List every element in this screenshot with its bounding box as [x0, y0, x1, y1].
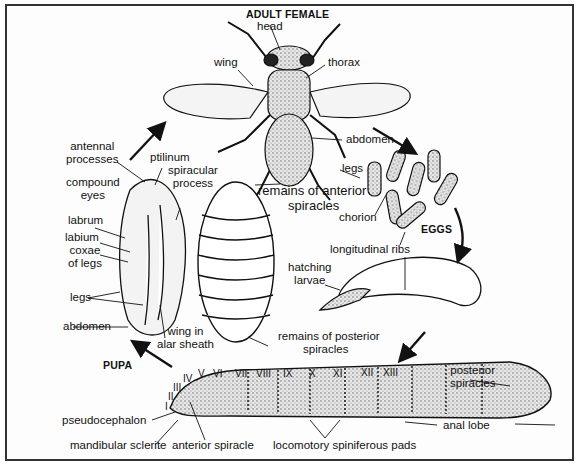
- label-head: head: [257, 20, 283, 33]
- label-wing-in-alar-sheath: wing in alar sheath: [157, 325, 214, 351]
- label-posterior-remains: remains of posterior spiracles: [278, 330, 380, 356]
- label-labium: labium: [65, 231, 99, 244]
- segment-VI: VI: [213, 367, 222, 380]
- segment-XI: XI: [333, 367, 342, 380]
- label-hatching-larvae: hatching larvae: [288, 261, 331, 287]
- segment-VII: VII: [235, 367, 247, 380]
- label-coxae-of-legs: coxae of legs: [68, 244, 102, 270]
- label-thorax: thorax: [328, 56, 360, 69]
- label-ptilinum: ptilinum: [150, 151, 190, 164]
- segment-IV: IV: [183, 372, 192, 385]
- label-anterior-remains-line1: remains of anterior: [258, 183, 366, 198]
- label-hatching-line2: larvae: [294, 274, 325, 286]
- label-abdomen-adult: abdomen: [346, 133, 394, 146]
- label-compound-eyes: compound eyes: [66, 176, 120, 202]
- label-wing-sheath-line1: wing in: [168, 325, 204, 337]
- label-labrum: labrum: [68, 214, 103, 227]
- segment-XII: XII: [361, 366, 373, 379]
- label-chorion: chorion: [339, 211, 377, 224]
- hatching-larva-illustration: [320, 257, 481, 310]
- label-coxae-line2: of legs: [68, 257, 102, 269]
- label-legs-adult: legs: [342, 162, 363, 175]
- segment-XIII: XIII: [383, 366, 398, 379]
- stage-label-eggs: EGGS: [421, 223, 452, 236]
- segment-V: V: [198, 367, 205, 380]
- segment-VIII: VIII: [256, 367, 271, 380]
- label-hatching-line1: hatching: [288, 261, 331, 273]
- label-antennal-line1: antennal: [70, 140, 114, 152]
- label-anterior-remains: remains of anterior spiracles: [258, 183, 366, 213]
- label-posterior-spiracles: posterior spiracles: [450, 364, 495, 390]
- label-anterior-remains-line2: spiracles: [258, 198, 339, 213]
- label-abdomen-pupa: abdomen: [63, 320, 111, 333]
- label-longitudinal-ribs: longitudinal ribs: [330, 243, 410, 256]
- label-coxae-line1: coxae: [70, 244, 101, 256]
- label-compound-line2: eyes: [81, 189, 105, 201]
- label-antennal-processes: antennal processes: [66, 140, 118, 166]
- label-posterior-remains-line2: spiracles: [278, 343, 348, 355]
- label-spiracular-process: spiracular process: [168, 164, 218, 190]
- segment-IX: IX: [283, 367, 292, 380]
- label-spiracular-line1: spiracular: [168, 164, 218, 176]
- label-posterior-remains-line1: remains of posterior: [278, 330, 380, 342]
- label-legs-pupa: legs: [70, 291, 91, 304]
- pupa-illustration: [120, 180, 186, 335]
- label-compound-line1: compound: [66, 176, 120, 188]
- label-locomotory-spiniferous-pads: locomotory spiniferous pads: [273, 439, 416, 452]
- label-pseudocephalon: pseudocephalon: [62, 414, 146, 427]
- eggs-illustration: [368, 149, 460, 231]
- label-wing-sheath-line2: alar sheath: [157, 338, 214, 350]
- label-spiracular-line2: process: [173, 177, 213, 189]
- label-posterior-spiracles-line1: posterior: [450, 364, 495, 376]
- label-anal-lobe: anal lobe: [443, 419, 490, 432]
- label-wing: wing: [214, 56, 238, 69]
- stage-label-pupa: PUPA: [103, 359, 132, 372]
- segment-X: X: [309, 367, 316, 380]
- label-posterior-spiracles-line2: spiracles: [450, 377, 495, 389]
- label-antennal-line2: processes: [66, 153, 118, 165]
- label-mandibular-sclerite: mandibular sclerite: [70, 439, 167, 452]
- segment-III: III: [173, 381, 181, 394]
- label-anterior-spiracle: anterior spiracle: [172, 439, 254, 452]
